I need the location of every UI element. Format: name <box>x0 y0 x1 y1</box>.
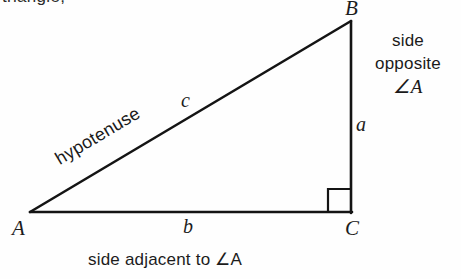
vertex-label-b: B <box>345 0 358 21</box>
side-label-c: c <box>181 89 190 112</box>
side-opposite-line-1: side <box>358 29 458 52</box>
vertex-label-a: A <box>12 216 25 241</box>
side-opposite-line-3-angle-a: ∠A <box>358 75 458 98</box>
side-label-b: b <box>183 215 193 238</box>
right-angle-marker <box>328 189 351 212</box>
vertex-label-c: C <box>345 216 359 241</box>
side-opposite-line-2: opposite <box>358 52 458 75</box>
side-adjacent-label: side adjacent to ∠A <box>88 249 242 270</box>
figure-canvas: triangle, A B C c a b hypotenuse side op… <box>0 0 461 279</box>
hypotenuse-line <box>30 21 351 212</box>
side-opposite-label-block: side opposite ∠A <box>358 29 458 98</box>
side-label-a: a <box>356 113 366 136</box>
